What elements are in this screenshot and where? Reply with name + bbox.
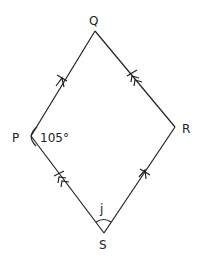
- double-arrow-sp-icon: [54, 171, 69, 187]
- parallelogram-diagram: Q P R S 105° j: [0, 0, 198, 262]
- side-rs: [104, 127, 175, 233]
- vertex-label-r: R: [182, 122, 190, 136]
- vertex-label-s: S: [99, 238, 107, 252]
- angle-label-s: j: [99, 202, 103, 216]
- angle-arc-s: [96, 220, 111, 223]
- side-qr: [95, 31, 175, 127]
- vertex-label-q: Q: [89, 14, 98, 28]
- angle-label-p: 105°: [40, 131, 69, 145]
- vertex-label-p: P: [12, 131, 19, 145]
- side-sp: [31, 136, 104, 233]
